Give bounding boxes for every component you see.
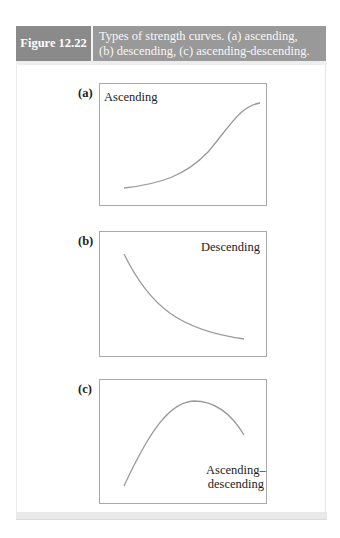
panel-b-descending: Descending [99, 231, 267, 357]
ascending-descending-label: Ascending– descending [206, 463, 266, 491]
figure-bottom-band [16, 512, 327, 520]
header-underline [16, 61, 327, 65]
ascending-label: Ascending [104, 90, 157, 104]
panel-b-letter: (b) [78, 234, 93, 249]
panel-c-letter: (c) [78, 382, 92, 397]
panel-a-ascending: Ascending [99, 83, 267, 206]
panel-c-ascending-descending: Ascending– descending [99, 379, 267, 504]
panel-a-letter: (a) [78, 86, 93, 101]
label-line-2: descending [206, 477, 266, 491]
figure-caption: Types of strength curves. (a) ascending,… [93, 26, 326, 61]
caption-line-1: Types of strength curves. (a) ascending, [99, 29, 326, 44]
caption-line-2: (b) descending, (c) ascending-descending… [99, 44, 326, 59]
label-line-1: Ascending– [206, 463, 266, 477]
descending-label: Descending [201, 240, 260, 254]
figure-number: Figure 12.22 [16, 26, 91, 61]
